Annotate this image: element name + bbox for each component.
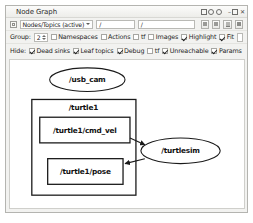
actions-checkbox[interactable]: Actions [101,33,131,41]
checkbox-icon [162,48,168,54]
graph-topic-label: /turtle1/cmd_vel [53,126,117,135]
checkbox-icon [219,34,225,40]
graph-group-label: /turtle1 [69,103,99,112]
namespaces-checkbox[interactable]: Namespaces [51,33,98,41]
hide-tf-checkbox[interactable]: tf [147,47,159,55]
group-depth-stepper[interactable]: 2 [34,33,48,42]
graph-node-usb-cam[interactable]: /usb_cam [50,68,125,92]
toolbar-row-graph-source: Nodes/Topics (active) / / [6,18,247,31]
checkbox-icon [181,34,187,40]
save-image-button[interactable] [223,20,231,29]
actions-label: Actions [108,33,130,41]
save-svg-button[interactable] [212,20,220,29]
highlight-input[interactable] [237,33,243,42]
graph-node-label: /usb_cam [69,75,106,84]
window-titlebar[interactable]: Node Graph – ✕ [6,6,247,18]
graph-topic-cmd-vel[interactable]: /turtle1/cmd_vel [40,117,130,143]
graph-node-turtlesim[interactable]: /turtlesim [141,138,220,164]
load-button[interactable] [235,20,243,29]
hide-params-checkbox[interactable]: Params [211,47,241,55]
checkbox-icon [133,34,139,40]
group-label: Group: [10,33,31,41]
images-label: Images [156,33,178,41]
checkbox-icon [148,34,154,40]
detach-icon[interactable] [201,9,207,15]
hide-leaf-topics-label: Leaf topics [81,47,114,55]
node-graph-window: Node Graph – ✕ Nodes/Topics (active) / /… [5,5,248,213]
float-icon[interactable] [232,9,238,15]
window-title: Node Graph [16,8,57,16]
stepper-arrows-icon[interactable] [42,35,46,40]
graph-type-combobox[interactable]: Nodes/Topics (active) [20,20,94,29]
tf-checkbox[interactable]: tf [133,33,145,41]
hide-params-label: Params [219,47,242,55]
fit-label: Fit [227,33,234,41]
hide-dead-sinks-checkbox[interactable]: Dead sinks [29,47,70,55]
toolbar-row-hide-options: Hide: Dead sinks Leaf topics Debug tf Un… [6,44,247,57]
checkbox-icon [73,48,79,54]
node-filter-input[interactable]: / [96,20,135,29]
drag-handle-icon[interactable] [9,8,14,15]
hide-unreachable-label: Unreachable [170,47,209,55]
gear-icon[interactable] [216,9,222,15]
window-controls: – ✕ [201,7,245,16]
ros-node-graph: /usb_cam /turtle1 /turtle1/cmd_vel /turt… [10,60,244,208]
refresh-icon[interactable] [10,21,17,28]
highlight-checkbox[interactable]: Highlight [181,33,216,41]
toolbar-row-group-options: Group: 2 Namespaces Actions tf Images Hi… [6,31,247,44]
hide-label: Hide: [10,47,26,55]
close-icon[interactable]: ✕ [240,7,245,16]
fit-checkbox[interactable]: Fit [219,33,234,41]
images-checkbox[interactable]: Images [148,33,178,41]
hide-dead-sinks-label: Dead sinks [36,47,70,55]
graph-topic-pose[interactable]: /turtle1/pose [48,159,123,185]
namespaces-label: Namespaces [58,33,97,41]
group-depth-value: 2 [37,34,41,41]
minimize-icon[interactable]: – [228,7,231,16]
hide-debug-label: Debug [124,47,144,55]
graph-node-label: /turtlesim [161,146,200,155]
graph-type-value: Nodes/Topics (active) [23,21,85,28]
hide-debug-checkbox[interactable]: Debug [117,47,145,55]
chevron-down-icon [86,23,90,25]
graph-topic-label: /turtle1/pose [60,167,111,176]
checkbox-icon [117,48,123,54]
help-icon[interactable] [208,9,214,15]
checkbox-icon [29,48,35,54]
hide-tf-label: tf [155,47,159,55]
highlight-label: Highlight [189,33,217,41]
tf-label: tf [141,33,145,41]
checkbox-icon [101,34,107,40]
graph-canvas[interactable]: /usb_cam /turtle1 /turtle1/cmd_vel /turt… [9,59,245,209]
hide-unreachable-checkbox[interactable]: Unreachable [162,47,208,55]
save-dot-button[interactable] [201,20,209,29]
topic-filter-input[interactable]: / [138,20,195,29]
checkbox-icon [147,48,153,54]
checkbox-icon [211,48,217,54]
hide-leaf-topics-checkbox[interactable]: Leaf topics [73,47,114,55]
checkbox-icon [51,34,57,40]
